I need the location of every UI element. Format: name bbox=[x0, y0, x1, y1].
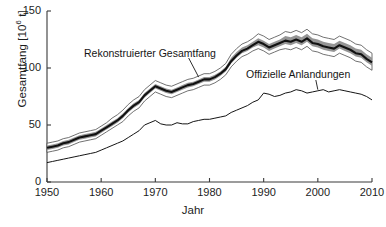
x-tick-label: 2000 bbox=[296, 186, 340, 198]
x-tick-label: 1950 bbox=[25, 186, 69, 198]
leader-line-rekonstruierter-gesamtfang bbox=[189, 58, 199, 77]
y-tick-label: 100 bbox=[11, 61, 41, 73]
series-line-offizielle-anlandungen bbox=[47, 90, 372, 163]
x-tick-marks bbox=[47, 178, 372, 182]
x-tick-label: 1970 bbox=[133, 186, 177, 198]
leader-line-offizielle-anlandungen bbox=[316, 80, 318, 90]
x-tick-label: 1960 bbox=[79, 186, 123, 198]
y-axis-label-exponent: 6 bbox=[14, 20, 23, 24]
chart-container: Gesamtfang [106 t] Jahr 050100150 195019… bbox=[0, 0, 386, 227]
x-tick-label: 1990 bbox=[242, 186, 286, 198]
axis-lines bbox=[47, 11, 372, 182]
x-axis-label: Jahr bbox=[0, 204, 386, 216]
y-tick-label: 50 bbox=[11, 118, 41, 130]
annotation-offizielle-anlandungen: Offizielle Anlandungen bbox=[246, 68, 350, 80]
x-tick-label: 1980 bbox=[188, 186, 232, 198]
y-tick-label: 150 bbox=[11, 4, 41, 16]
x-tick-label: 2010 bbox=[350, 186, 386, 198]
y-tick-marks bbox=[47, 11, 51, 182]
annotation-rekonstruierter-gesamtfang: Rekonstruierter Gesamtfang bbox=[84, 47, 216, 59]
